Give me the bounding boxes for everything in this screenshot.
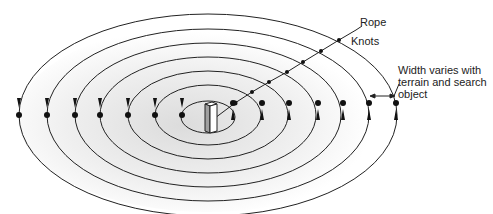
- width-label-line-3: object: [398, 88, 493, 100]
- center-post: [205, 102, 217, 133]
- width-label-line-2: terrain and search: [398, 76, 493, 88]
- rope-label: Rope: [360, 16, 386, 28]
- search-pattern-diagram: [0, 0, 493, 214]
- width-label: Width varies with terrain and search obj…: [398, 64, 493, 100]
- knots-label: Knots: [351, 35, 379, 47]
- width-label-line-1: Width varies with: [398, 64, 493, 76]
